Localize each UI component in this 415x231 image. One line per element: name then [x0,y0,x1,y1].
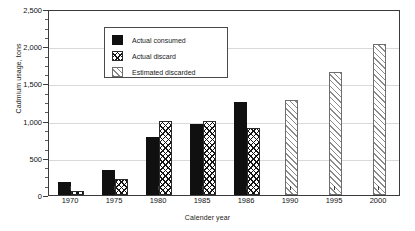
y-axis-tick-label: 500 [29,154,42,163]
x-axis-tick [158,186,159,190]
x-axis-tick-label: 1970 [62,196,79,205]
legend-swatch-actual-consumed-icon [112,35,123,45]
y-axis-tick-label: 1,000 [23,117,42,126]
x-axis-title: Calender year [0,214,415,221]
y-axis-tick-label: 2,500 [23,6,42,15]
legend-label-estimated-discarded: Estimated discarded [132,69,195,76]
x-axis-tick-label: 1990 [282,196,299,205]
y-axis-tick-major [43,196,48,197]
legend-item-actual-discard: Actual discard [112,49,227,63]
x-axis-tick [334,186,335,190]
y-axis-tick-label: 0 [38,192,42,201]
y-axis-tick-label: 1,500 [23,80,42,89]
x-axis-tick-label: 1985 [194,196,211,205]
y-axis-title: Cadmium usage, tons [15,9,22,149]
cadmium-usage-chart: Cadmium usage, tons 05001,0001,5002,0002… [0,0,415,231]
legend-label-actual-discard: Actual discard [132,53,176,60]
legend-item-estimated-discarded: Estimated discarded [112,65,227,79]
x-axis-tick [246,186,247,190]
legend-label-actual-consumed: Actual consumed [132,37,186,44]
x-axis-tick-label: 1975 [106,196,123,205]
chart-legend: Actual consumed Actual discard Estimated… [104,27,228,78]
x-axis-tick [70,186,71,190]
bar-estimated-2000 [373,44,386,195]
x-axis-tick-label: 1980 [150,196,167,205]
legend-swatch-actual-discard-icon [112,51,123,61]
y-axis-tick-label: 2,000 [23,43,42,52]
x-axis-tick-label: 1995 [326,196,343,205]
legend-swatch-estimated-discarded-icon [112,67,123,77]
x-axis-tick [290,186,291,190]
plot-area: Actual consumed Actual discard Estimated… [48,10,400,196]
x-axis-tick [114,186,115,190]
x-axis-tick [202,186,203,190]
x-axis-tick-label: 1986 [238,196,255,205]
x-axis-tick [378,186,379,190]
legend-item-actual-consumed: Actual consumed [112,33,227,47]
x-axis-tick-label: 2000 [370,196,387,205]
